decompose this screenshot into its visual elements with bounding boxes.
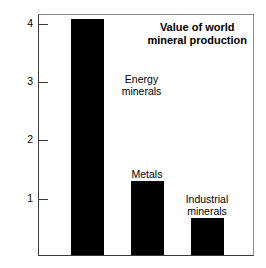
y-tick-label-1: 1	[20, 193, 33, 203]
bar-label-industrial-minerals: Industrial minerals	[162, 193, 252, 217]
chart-title-line2: mineral production	[147, 34, 247, 46]
plot-area: Energy minerals Metals Industrial minera…	[38, 14, 254, 256]
bar-label-energy-minerals-line1: Energy	[125, 73, 158, 85]
y-axis-tick-3	[39, 82, 48, 83]
y-tick-label-3: 3	[20, 76, 33, 86]
bar-chart-figure: Value (trillions of dollars) 1 2 3 4 Ene…	[0, 0, 266, 268]
chart-title: Value of world mineral production	[147, 21, 247, 47]
bar-label-industrial-minerals-line2: minerals	[187, 205, 227, 217]
bar-metals	[131, 181, 164, 255]
y-axis-tick-4	[39, 24, 48, 25]
bar-label-energy-minerals-line2: minerals	[122, 85, 162, 97]
y-tick-label-2: 2	[20, 134, 33, 144]
bar-label-metals-line1: Metals	[132, 168, 163, 180]
bar-label-metals: Metals	[102, 168, 192, 180]
bar-label-energy-minerals: Energy minerals	[106, 73, 178, 97]
y-axis-tick-1	[39, 199, 48, 200]
chart-title-line1: Value of world	[160, 21, 235, 33]
y-tick-label-4: 4	[20, 18, 33, 28]
y-axis-tick-labels: 1 2 3 4	[20, 0, 33, 268]
bar-label-industrial-minerals-line1: Industrial	[186, 193, 229, 205]
y-axis-tick-2	[39, 140, 48, 141]
bar-energy-minerals	[71, 19, 104, 255]
y-axis-title: Value (trillions of dollars)	[0, 0, 18, 18]
bar-industrial-minerals	[191, 218, 224, 255]
